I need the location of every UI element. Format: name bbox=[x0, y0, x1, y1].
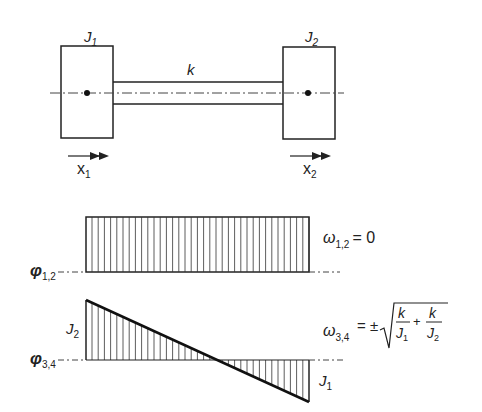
label-amp-j1: J1 bbox=[318, 372, 333, 392]
label-j1: J1 bbox=[83, 28, 97, 48]
svg-text:k: k bbox=[429, 305, 437, 321]
svg-text:J1: J1 bbox=[395, 325, 408, 343]
label-k: k bbox=[187, 61, 196, 78]
label-x2: x2 bbox=[303, 160, 317, 180]
center-dot-left bbox=[84, 90, 90, 96]
svg-text:+: + bbox=[413, 314, 421, 329]
omega34-formula: ω3,4 = ± k J1 + k J2 bbox=[323, 303, 448, 348]
torsional-mode-diagram: J1 J2 k x1 x2 φ1,2 ω1,2= 0 φ3,4 bbox=[0, 0, 482, 412]
rigid-mode-shape: φ1,2 ω1,2= 0 bbox=[30, 217, 375, 282]
label-amp-j2: J2 bbox=[65, 320, 80, 340]
center-dot-right bbox=[305, 90, 311, 96]
two-mass-model: J1 J2 k x1 x2 bbox=[50, 28, 344, 180]
arrow-x2-icon bbox=[290, 152, 331, 160]
mode-shape-line bbox=[86, 300, 309, 402]
svg-text:k: k bbox=[398, 305, 406, 321]
label-phi12: φ1,2 bbox=[30, 261, 56, 282]
label-phi34: φ3,4 bbox=[30, 349, 56, 370]
label-j2: J2 bbox=[304, 28, 319, 48]
arrow-x1-icon bbox=[68, 152, 109, 160]
elastic-mode-shape: φ3,4 J2 J1 ω3,4 = ± k J1 + k J2 bbox=[30, 300, 448, 402]
svg-text:= ±: = ± bbox=[357, 317, 378, 334]
svg-text:ω3,4: ω3,4 bbox=[323, 322, 350, 343]
label-omega12: ω1,2= 0 bbox=[323, 229, 375, 250]
svg-text:J2: J2 bbox=[426, 325, 439, 343]
label-x1: x1 bbox=[77, 160, 91, 180]
